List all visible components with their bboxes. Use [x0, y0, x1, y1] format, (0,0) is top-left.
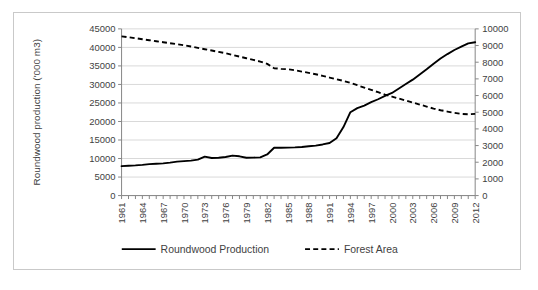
left-tick-label: 10000 [89, 153, 115, 164]
x-tick-label: 1964 [137, 203, 148, 224]
x-tick-label: 2006 [428, 203, 439, 224]
chart-legend: Roundwood ProductionForest Area [122, 244, 398, 255]
left-tick-label: 25000 [89, 97, 115, 108]
right-tick-label: 6000 [482, 90, 503, 101]
plot-axes [122, 29, 476, 196]
right-tick-label: 1000 [482, 173, 503, 184]
legend-label: Roundwood Production [161, 244, 270, 255]
x-axis-ticks: 1961196419671970197319761979198219851988… [116, 196, 481, 224]
left-tick-label: 20000 [89, 116, 115, 127]
left-tick-label: 15000 [89, 134, 115, 145]
right-tick-label: 5000 [482, 107, 503, 118]
x-tick-label: 1967 [158, 203, 169, 224]
series-line-roundwood-production [122, 42, 476, 166]
left-tick-label: 45000 [89, 23, 115, 34]
x-tick-label: 1991 [324, 203, 335, 224]
x-tick-label: 1979 [241, 203, 252, 224]
right-axis-ticks: 0100020003000400050006000700080009000100… [475, 23, 508, 201]
x-tick-label: 2009 [449, 203, 460, 224]
x-tick-label: 1973 [199, 203, 210, 224]
right-tick-label: 9000 [482, 40, 503, 51]
right-tick-label: 2000 [482, 157, 503, 168]
left-tick-label: 30000 [89, 79, 115, 90]
x-tick-label: 2000 [387, 203, 398, 224]
right-tick-label: 8000 [482, 57, 503, 68]
series-layer [122, 36, 476, 166]
x-tick-label: 1988 [303, 203, 314, 224]
grid-lines [122, 29, 476, 196]
dual-axis-line-chart: 0500010000150002000025000300003500040000… [14, 13, 520, 269]
x-tick-label: 1976 [220, 203, 231, 224]
left-tick-label: 35000 [89, 60, 115, 71]
chart-card: 0500010000150002000025000300003500040000… [13, 12, 521, 270]
left-tick-label: 40000 [89, 42, 115, 53]
right-tick-label: 10000 [482, 23, 508, 34]
x-tick-label: 1994 [345, 203, 356, 224]
x-tick-label: 1985 [283, 203, 294, 224]
x-tick-label: 1970 [179, 203, 190, 224]
left-tick-label: 5000 [95, 171, 116, 182]
x-tick-label: 1961 [116, 203, 127, 224]
legend-label: Forest Area [344, 244, 398, 255]
left-tick-label: 0 [110, 190, 115, 201]
right-tick-label: 3000 [482, 140, 503, 151]
x-tick-label: 2003 [407, 203, 418, 224]
right-tick-label: 4000 [482, 123, 503, 134]
x-tick-label: 2012 [470, 203, 481, 224]
right-tick-label: 7000 [482, 73, 503, 84]
right-tick-label: 0 [482, 190, 487, 201]
left-axis-ticks: 0500010000150002000025000300003500040000… [89, 23, 121, 201]
x-tick-label: 1982 [262, 203, 273, 224]
left-axis-title: Roundwood production ('000 m3) [31, 39, 42, 185]
x-tick-label: 1997 [366, 203, 377, 224]
